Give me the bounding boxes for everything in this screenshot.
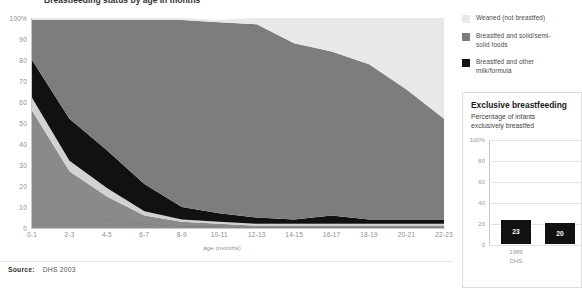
inset-x-axis-label-source: DHS [509, 257, 522, 266]
x-axis-tick: 20-21 [398, 231, 416, 238]
x-axis-tick: 16-17 [323, 231, 341, 238]
x-axis-line [31, 228, 445, 229]
x-axis-tick: 4-5 [102, 231, 112, 238]
source-divider [0, 261, 452, 262]
inset-bar-chart: 100%806040200 231989DHS20 [489, 140, 581, 244]
legend-swatch-solids [462, 33, 470, 41]
x-axis-tick: 18-19 [360, 231, 378, 238]
inset-y-axis-line [489, 140, 490, 245]
y-axis-tick: 90 [19, 36, 27, 43]
x-axis-tick: 22-23 [435, 231, 453, 238]
x-axis-tick: 2-3 [64, 231, 74, 238]
inset-title: Exclusive breastfeeding [471, 100, 567, 110]
legend-swatch-weaned [462, 15, 470, 23]
stacked-area-plot [32, 18, 444, 228]
x-axis-tick: 14-15 [285, 231, 303, 238]
legend-label-weaned: Weaned (not breastfed) [476, 14, 545, 23]
x-axis: 0-12-34-56-78-910-1112-1314-1516-1718-19… [32, 231, 444, 245]
main-chart-figure: Breastfeeding status by age in months 01… [0, 0, 452, 293]
legend-item-othermilk: Breastfed and other milk/formula [462, 58, 556, 75]
x-axis-tick: 8-9 [177, 231, 187, 238]
inset-y-axis-tick: 80 [478, 158, 485, 164]
x-axis-tick: 0-1 [27, 231, 37, 238]
legend-swatch-othermilk [462, 59, 470, 67]
y-axis-tick: 100% [10, 15, 27, 22]
inset-bar: 20 [545, 223, 575, 244]
inset-y-axis-tick: 60 [478, 179, 485, 185]
y-axis-tick: 20 [19, 183, 27, 190]
y-axis-tick: 10 [19, 204, 27, 211]
inset-gridline [489, 203, 581, 204]
y-axis: 0102030405060708090100% [0, 18, 32, 228]
x-axis-tick: 6-7 [139, 231, 149, 238]
inset-subtitle: Percentage of infants exclusively breast… [471, 112, 557, 130]
page-title: Breastfeeding status by age in months [44, 0, 200, 5]
inset-y-axis-tick: 0 [482, 242, 485, 248]
legend-label-solids: Breastfed and solid/semi-solid foods [476, 32, 556, 49]
y-axis-tick: 70 [19, 78, 27, 85]
inset-y-axis-tick: 20 [478, 221, 485, 227]
y-axis-tick: 30 [19, 162, 27, 169]
inset-y-axis-tick: 100% [470, 137, 485, 143]
inset-gridline [489, 182, 581, 183]
legend-item-solids: Breastfed and solid/semi-solid foods [462, 32, 556, 49]
inset-panel: Exclusive breastfeeding Percentage of in… [462, 92, 582, 288]
inset-gridline [489, 140, 581, 141]
legend-label-othermilk: Breastfed and other milk/formula [476, 58, 556, 75]
inset-x-axis-label: 1989DHS [509, 248, 522, 266]
inset-bar-value: 20 [556, 230, 563, 237]
y-axis-tick: 80 [19, 57, 27, 64]
chart-legend: Weaned (not breastfed) Breastfed and sol… [462, 14, 556, 84]
x-axis-tick: 10-11 [211, 231, 228, 238]
y-axis-tick: 40 [19, 141, 27, 148]
inset-gridline [489, 161, 581, 162]
inset-y-axis-tick: 40 [478, 200, 485, 206]
source-note: Source:DHS 2003 [8, 266, 76, 273]
source-label: Source: [8, 266, 35, 273]
x-axis-tick: 12-13 [248, 231, 266, 238]
inset-bar-value: 23 [512, 228, 519, 235]
source-value: DHS 2003 [43, 266, 76, 273]
inset-x-axis-label-year: 1989 [509, 248, 522, 257]
inset-gridline [489, 245, 581, 246]
stacked-area-svg [32, 18, 444, 228]
x-axis-title: age (months) [0, 245, 444, 251]
inset-bar: 23 [501, 220, 531, 244]
y-axis-tick: 50 [19, 120, 27, 127]
legend-item-weaned: Weaned (not breastfed) [462, 14, 556, 23]
y-axis-tick: 60 [19, 99, 27, 106]
